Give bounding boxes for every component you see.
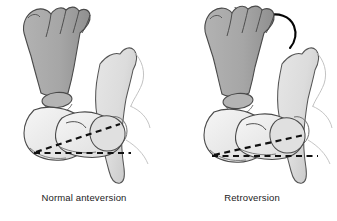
caption-retroversion: Retroversion: [168, 192, 336, 203]
foot: [23, 7, 90, 113]
foot: [205, 6, 274, 114]
panel-retroversion: Retroversion: [168, 0, 336, 221]
femoral-version-figure: Normal anteversion: [0, 0, 337, 221]
retroversion-illustration: [168, 0, 336, 192]
pelvis-bone: [278, 48, 332, 183]
panel-normal-anteversion: Normal anteversion: [0, 0, 168, 221]
caption-normal-anteversion: Normal anteversion: [0, 192, 168, 203]
anteversion-illustration: [0, 0, 168, 192]
